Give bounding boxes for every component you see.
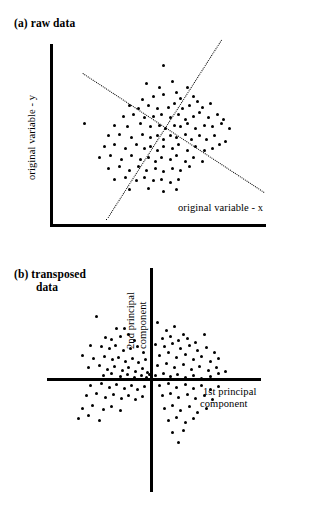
data-point [81,354,84,357]
data-point [190,368,193,371]
data-point [117,356,120,359]
panel-b: (b) transposed data 2nd principal compon… [0,250,314,508]
data-point [149,125,152,128]
data-point [173,102,176,105]
data-point [129,347,132,350]
data-point [77,417,80,420]
data-point [98,156,101,159]
data-point [196,411,199,414]
data-point [141,367,144,370]
data-point [186,149,189,152]
data-point [194,341,197,344]
data-point [122,349,125,352]
data-point [201,106,204,109]
data-point [137,107,140,110]
data-point [134,370,137,373]
data-point [169,181,172,184]
data-point [171,147,174,150]
data-point [110,405,113,408]
data-point [215,366,218,369]
data-point [141,133,144,136]
data-point [194,397,197,400]
data-point [113,143,116,146]
data-point [108,347,111,350]
data-point [120,397,123,400]
data-point [137,361,140,364]
data-point [177,113,180,116]
data-point [200,377,203,380]
data-point [192,115,195,118]
data-point [177,396,180,399]
data-point [160,178,163,181]
data-point [203,394,206,397]
data-point [188,165,191,168]
data-point [177,178,180,181]
data-point [156,364,159,367]
data-point [156,107,159,110]
data-point [114,344,117,347]
data-point [133,339,136,342]
data-point [203,149,206,152]
data-point [147,156,150,159]
data-point [161,337,164,340]
data-point [87,366,90,369]
data-point [131,357,134,360]
data-point [176,373,179,376]
data-point [112,393,115,396]
data-point [92,357,95,360]
data-point [181,107,184,110]
data-point [162,190,165,193]
data-point [119,375,122,378]
data-point [192,374,195,377]
data-point [211,125,214,128]
data-point [169,158,172,161]
data-point [110,338,113,341]
data-point [103,355,106,358]
data-point [160,156,163,159]
data-point [186,337,189,340]
data-point [205,407,208,410]
data-point [102,408,105,411]
data-point [118,165,121,168]
data-point [171,167,174,170]
data-point [144,358,147,361]
data-point [163,345,166,348]
data-point [136,345,139,348]
data-point [158,384,161,387]
data-point [165,329,168,332]
pca-figure: (a) raw data original variable - y origi… [0,0,314,508]
data-point [217,385,220,388]
data-point [184,383,187,386]
data-point [162,170,165,173]
data-point [122,115,125,118]
data-point [228,127,231,130]
data-point [184,376,187,379]
data-point [136,388,139,391]
data-point [154,343,157,346]
data-point [171,342,174,345]
data-point [98,419,101,422]
data-point [102,374,105,377]
panel-a: (a) raw data original variable - y origi… [0,0,314,250]
data-point [207,369,210,372]
data-point [124,360,127,363]
data-point [222,118,225,121]
data-point [213,351,216,354]
data-point [186,86,189,89]
data-point [224,370,227,373]
data-point [137,165,140,168]
data-point [139,122,142,125]
data-point [148,373,151,376]
data-point [167,351,170,354]
data-point [141,395,144,398]
data-point [100,345,103,348]
data-point [128,188,131,191]
data-point [190,138,193,141]
data-point [177,441,180,444]
data-point [162,93,165,96]
data-point [145,376,148,379]
data-point [192,387,195,390]
data-point [200,355,203,358]
data-point [171,80,174,83]
data-point [115,383,118,386]
